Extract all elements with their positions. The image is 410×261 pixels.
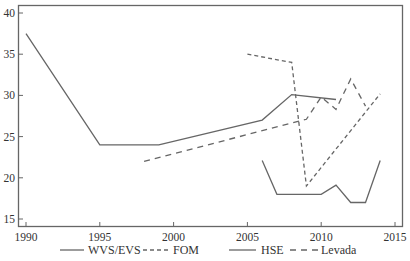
x-tick-label: 2010 <box>310 231 333 243</box>
y-tick-label: 15 <box>4 213 16 225</box>
series-hse <box>262 161 380 203</box>
legend-item-hse: HSE <box>229 243 284 257</box>
legend-item-levada: Levada <box>290 243 357 257</box>
legend-label-levada: Levada <box>321 243 357 257</box>
y-tick-label: 35 <box>4 48 16 60</box>
legend-label-hse: HSE <box>261 243 284 257</box>
y-tick-label: 25 <box>4 131 16 143</box>
y-tick-label: 20 <box>4 172 16 184</box>
x-tick-label: 2005 <box>236 231 259 243</box>
legend-item-fom: FOM <box>143 243 199 257</box>
x-tick-label: 2000 <box>162 231 185 243</box>
line-chart: 152025303540 199019952000200520102015 WV… <box>0 0 410 261</box>
x-axis: 199019952000200520102015 <box>15 222 407 243</box>
series-fom <box>247 54 380 186</box>
plot-frame <box>19 6 403 227</box>
x-tick-label: 2015 <box>384 231 407 243</box>
x-tick-label: 1990 <box>15 231 38 243</box>
series-layer <box>26 34 380 203</box>
y-axis: 152025303540 <box>4 7 24 225</box>
legend: WVS/EVS FOM HSE Levada <box>60 243 357 257</box>
legend-label-wvs-evs: WVS/EVS <box>88 243 141 257</box>
y-tick-label: 40 <box>4 7 16 19</box>
x-tick-label: 1995 <box>88 231 111 243</box>
legend-label-fom: FOM <box>173 243 199 257</box>
series-levada <box>144 79 365 161</box>
series-wvs-evs <box>26 34 336 145</box>
legend-item-wvs-evs: WVS/EVS <box>60 243 141 257</box>
y-tick-label: 30 <box>4 89 16 101</box>
